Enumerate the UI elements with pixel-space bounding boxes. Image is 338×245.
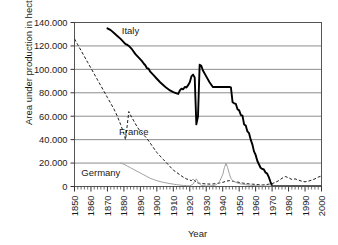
x-axis-tick-label: 1890	[136, 196, 146, 217]
line-chart-plot: 140.000120.000100.00080.00060.00040.0002…	[0, 0, 338, 245]
x-axis-tick-label: 2000	[317, 196, 327, 217]
series-label-germany: Germany	[81, 167, 120, 178]
x-axis-tick-label: 1850	[70, 196, 80, 217]
x-axis-tick-label: 1880	[119, 196, 129, 217]
y-axis-tick-label: 0	[62, 182, 67, 192]
chart-container: Area under production in hectares Year 1…	[0, 0, 338, 245]
series-group	[75, 28, 322, 186]
y-axis-tick-label: 20.000	[39, 158, 67, 168]
x-axis-tick-label: 1870	[103, 196, 113, 217]
x-axis-tick-label: 1940	[218, 196, 228, 217]
x-axis-tick-label: 1970	[268, 196, 278, 217]
series-line-italy	[107, 28, 321, 186]
x-axis-tick-label: 1980	[284, 196, 294, 217]
x-axis-tick-label: 1930	[202, 196, 212, 217]
x-axis-tick-label: 1860	[86, 196, 96, 217]
y-axis-tick-label: 60.000	[39, 112, 67, 122]
x-axis-tick-label: 1990	[301, 196, 311, 217]
series-label-france: France	[119, 126, 149, 137]
y-axis-tick-label: 120.000	[34, 41, 68, 51]
x-axis-tick-label: 1960	[251, 196, 261, 217]
y-axis-tick-label: 100.000	[34, 65, 68, 75]
y-axis-tick-label: 40.000	[39, 135, 67, 145]
x-axis-tick-label: 1900	[152, 196, 162, 217]
x-axis-tick-label: 1950	[235, 196, 245, 217]
series-label-italy: Italy	[122, 25, 140, 36]
y-axis-tick-label: 140.000	[34, 18, 68, 28]
series-line-germany	[121, 163, 322, 186]
x-axis-tick-label: 1910	[169, 196, 179, 217]
y-axis-tick-label: 80.000	[39, 88, 67, 98]
x-axis-tick-label: 1920	[185, 196, 195, 217]
